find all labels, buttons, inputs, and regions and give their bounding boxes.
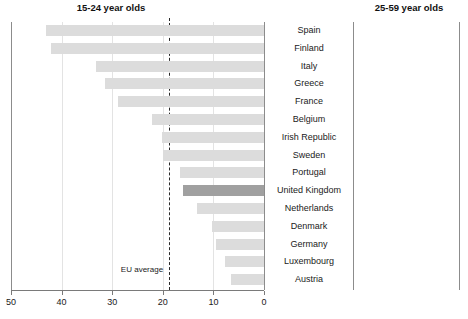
x-tick-label-30: 30 [107,297,117,307]
chart-figure: 15-24 year olds 50403020100EU average Sp… [0,0,468,319]
bar [216,239,264,250]
category-label: Portugal [268,167,350,178]
bar [212,221,264,232]
eu-average-label: EU average [121,265,163,274]
x-tick-label-40: 40 [57,297,67,307]
x-tick-label-50: 50 [6,297,16,307]
x-tick-40 [62,291,63,295]
left-frame-start [11,22,12,290]
x-tick-label-0: 0 [261,297,266,307]
panel-25-59: 25-59 year olds 01020EU average [350,0,468,319]
plot-area-left: 50403020100EU average [11,22,264,290]
bar [162,132,264,143]
category-label: Greece [268,78,350,89]
category-label: Finland [268,43,350,54]
gridline-40 [62,22,63,290]
category-label: Irish Republic [268,132,350,143]
bar [96,61,264,72]
x-tick-50 [11,291,12,295]
category-label: Austria [268,274,350,285]
x-tick-30 [112,291,113,295]
panel-right-title: 25-59 year olds [350,2,468,13]
bar [46,25,264,36]
bar [105,78,264,89]
x-tick-label-10: 10 [208,297,218,307]
x-tick-10 [213,291,214,295]
bar [231,274,264,285]
x-axis-line [11,290,264,291]
bar [180,167,264,178]
bar [163,150,264,161]
category-label: Spain [268,25,350,36]
category-label-column: SpainFinlandItalyGreeceFranceBelgiumIris… [268,0,350,319]
x-tick-label-20: 20 [158,297,168,307]
category-label: Belgium [268,114,350,125]
category-label: United Kingdom [268,185,350,196]
panel-15-24: 15-24 year olds 50403020100EU average [0,0,268,319]
right-frame-start [353,22,354,290]
left-frame-end [264,22,265,290]
bar [197,203,264,214]
right-frame-end [459,22,460,290]
category-label: France [268,96,350,107]
bar [152,114,264,125]
bar [118,96,264,107]
bar [183,185,264,196]
category-label: Sweden [268,150,350,161]
bar [225,256,264,267]
x-tick-0 [264,291,265,295]
category-label: Germany [268,239,350,250]
panel-left-title: 15-24 year olds [0,2,245,13]
bar [51,43,264,54]
category-label: Netherlands [268,203,350,214]
category-label: Italy [268,61,350,72]
x-tick-20 [163,291,164,295]
category-label: Luxembourg [268,256,350,267]
category-label: Denmark [268,221,350,232]
